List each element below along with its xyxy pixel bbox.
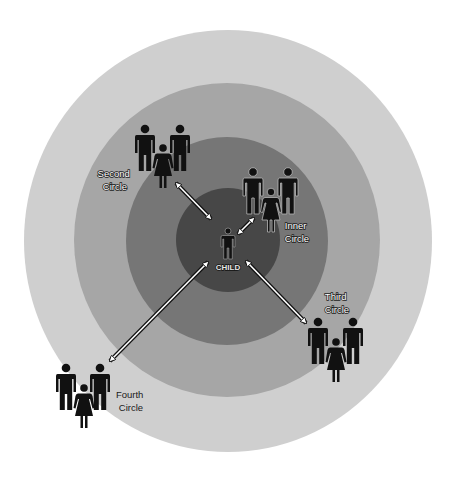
third-circle-label-line1: Third	[325, 291, 347, 302]
concentric-circles-diagram: Second Circle Inner Circle Third Circle …	[0, 0, 454, 479]
inner-circle-label-line2: Circle	[285, 233, 309, 244]
child-label: CHILD	[216, 263, 241, 272]
inner-circle-label-line1: Inner	[285, 220, 307, 231]
fourth-circle-label-line2: Circle	[119, 402, 143, 413]
second-circle-label-line2: Circle	[103, 181, 127, 192]
third-circle-label-line2: Circle	[325, 304, 349, 315]
fourth-circle-label-line1: Fourth	[116, 389, 143, 400]
second-circle-label-line1: Second	[98, 168, 130, 179]
